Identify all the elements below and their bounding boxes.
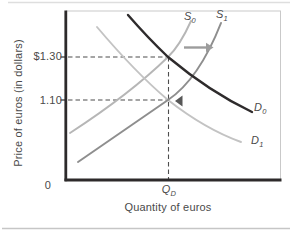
qd-base: Q xyxy=(162,183,171,195)
demand-curve-d0 xyxy=(128,15,252,112)
s0-curve-label: S0 xyxy=(184,11,196,25)
x-axis-title: Quantity of euros xyxy=(93,202,243,214)
d1-label-sub: 1 xyxy=(259,140,263,149)
s0-label-sub: 0 xyxy=(192,16,196,25)
d0-curve-label: D0 xyxy=(254,102,267,116)
d1-label-base: D xyxy=(251,134,259,146)
d0-label-sub: 0 xyxy=(262,107,266,116)
exchange-rate-figure: Price of euros (in dollars) $1.30 1.10 0… xyxy=(0,0,291,234)
supply-curve-s0 xyxy=(70,21,191,133)
s1-label-sub: 1 xyxy=(224,14,228,23)
s1-curve-label: S1 xyxy=(216,9,228,23)
origin-label: 0 xyxy=(42,180,54,192)
supply-curve-s1 xyxy=(78,23,221,162)
chart-canvas xyxy=(0,0,291,234)
y-tick-label-110: 1.10 xyxy=(24,95,62,107)
demand-shift-left-arrow-head xyxy=(175,96,183,107)
s0-label-base: S xyxy=(184,10,192,22)
y-tick-label-130: $1.30 xyxy=(24,51,62,63)
x-tick-label-qd: QD xyxy=(156,184,182,198)
d0-label-base: D xyxy=(254,101,262,113)
s1-label-base: S xyxy=(216,8,224,20)
qd-sub: D xyxy=(171,189,177,198)
d1-curve-label: D1 xyxy=(251,135,264,149)
